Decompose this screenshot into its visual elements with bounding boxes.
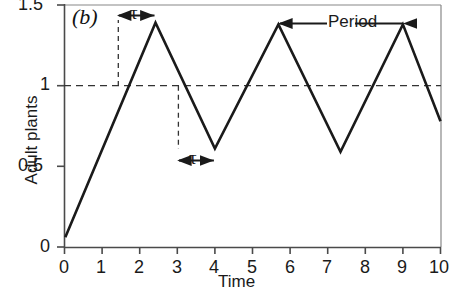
tau-bottom-label: τ [189,147,197,169]
series-adult-plants [65,23,440,238]
x-tick-label-2: 2 [134,257,144,278]
y-tick-label-0: 0 [40,236,50,257]
period-label: Period [328,12,377,32]
x-tick-label-0: 0 [59,257,69,278]
tau-top-label: τ [130,2,138,24]
x-tick-label-6: 6 [285,257,295,278]
x-tick-label-8: 8 [360,257,370,278]
y-axis-ticks [57,5,64,247]
x-tick-label-7: 7 [322,257,332,278]
y-axis-title: Adult plants [22,80,42,200]
x-tick-label-3: 3 [172,257,182,278]
y-tick-label-1.5: 1.5 [18,0,43,15]
x-tick-label-10: 10 [429,257,449,278]
x-tick-label-1: 1 [96,257,106,278]
x-tick-label-9: 9 [397,257,407,278]
panel-label: (b) [72,4,98,30]
x-axis-title: Time [218,272,255,292]
